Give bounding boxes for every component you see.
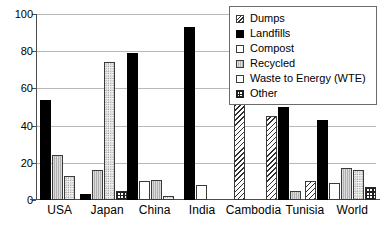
bar-tunisia-recycled bbox=[290, 191, 301, 200]
legend-label-other: Other bbox=[250, 88, 278, 99]
legend-label-wte: Waste to Energy (WTE) bbox=[250, 73, 366, 84]
bar-group-india bbox=[174, 14, 218, 200]
bar-world-dumps bbox=[305, 181, 316, 200]
bar-group-china bbox=[127, 14, 174, 200]
bar-group-japan bbox=[80, 14, 127, 200]
legend-item-wte: Waste to Energy (WTE) bbox=[236, 71, 372, 86]
bar-tunisia-dumps bbox=[266, 116, 277, 200]
x-axis-label-japan: Japan bbox=[83, 203, 130, 217]
legend-item-landfills: Landfills bbox=[236, 26, 372, 41]
bar-world-wte bbox=[353, 170, 364, 200]
x-axis-label-world: World bbox=[329, 203, 376, 217]
legend-item-dumps: Dumps bbox=[236, 11, 372, 26]
bar-world-recycled bbox=[341, 168, 352, 200]
y-tick-label-80: 80 bbox=[3, 46, 33, 57]
x-axis-label-usa: USA bbox=[36, 203, 83, 217]
legend-swatch-dumps-icon bbox=[236, 15, 244, 23]
bar-india-compost bbox=[196, 185, 207, 200]
bar-china-compost bbox=[139, 181, 150, 200]
bar-japan-other bbox=[116, 191, 127, 200]
bar-group-usa bbox=[36, 14, 80, 200]
bar-japan-wte bbox=[104, 62, 115, 200]
legend-label-compost: Compost bbox=[250, 43, 294, 54]
x-axis-label-india: India bbox=[178, 203, 225, 217]
y-tick-label-0: 0 bbox=[3, 195, 33, 206]
y-tick-label-60: 60 bbox=[3, 83, 33, 94]
x-axis-label-china: China bbox=[131, 203, 178, 217]
bar-china-wte bbox=[163, 196, 174, 200]
legend-label-landfills: Landfills bbox=[250, 28, 290, 39]
bar-usa-landfills bbox=[40, 100, 51, 200]
legend-swatch-landfills-icon bbox=[236, 30, 244, 38]
bar-india-landfills bbox=[184, 27, 195, 200]
legend-swatch-other-icon bbox=[236, 90, 244, 98]
y-tick-label-40: 40 bbox=[3, 121, 33, 132]
x-axis-labels: USAJapanChinaIndiaCambodiaTunisiaWorld bbox=[36, 203, 376, 217]
x-axis-label-tunisia: Tunisia bbox=[281, 203, 328, 217]
legend-item-recycled: Recycled bbox=[236, 56, 372, 71]
bar-tunisia-landfills bbox=[278, 107, 289, 200]
bar-world-other bbox=[365, 187, 376, 200]
bar-usa-recycled bbox=[52, 155, 63, 200]
legend-swatch-compost-icon bbox=[236, 45, 244, 53]
bar-world-compost bbox=[329, 183, 340, 200]
legend-swatch-wte-icon bbox=[236, 75, 244, 83]
bar-japan-landfills bbox=[80, 194, 91, 200]
legend-item-other: Other bbox=[236, 86, 372, 101]
bar-usa-wte bbox=[64, 176, 75, 200]
bar-china-landfills bbox=[127, 53, 138, 200]
legend-label-recycled: Recycled bbox=[250, 58, 295, 69]
legend-item-compost: Compost bbox=[236, 41, 372, 56]
y-tick-label-20: 20 bbox=[3, 158, 33, 169]
waste-treatment-bar-chart: 100 80 60 40 20 0 USAJapanChinaIndiaCamb… bbox=[0, 0, 386, 237]
legend: DumpsLandfillsCompostRecycledWaste to En… bbox=[229, 6, 377, 105]
bar-japan-recycled bbox=[92, 170, 103, 200]
bar-china-recycled bbox=[151, 180, 162, 200]
y-tick-label-100: 100 bbox=[3, 9, 33, 20]
legend-label-dumps: Dumps bbox=[250, 13, 285, 24]
legend-swatch-recycled-icon bbox=[236, 60, 244, 68]
x-axis-label-cambodia: Cambodia bbox=[226, 203, 282, 217]
bar-world-landfills bbox=[317, 120, 328, 200]
